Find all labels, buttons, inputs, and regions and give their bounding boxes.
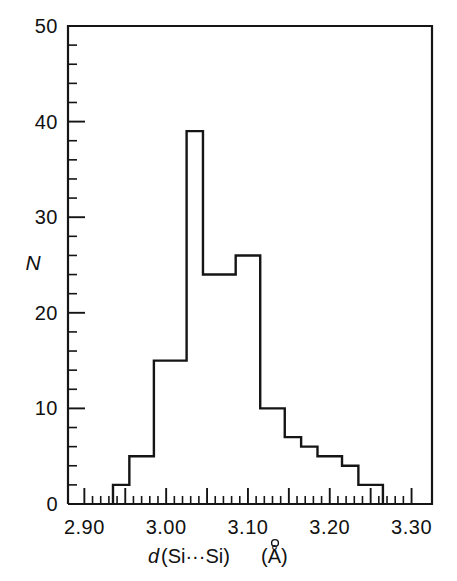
x-axis-title-variable: d [148,545,160,567]
x-tick-label: 3.20 [309,516,350,538]
x-axis-title-atoms: (Si···Si) [161,545,230,567]
x-tick-label: 3.00 [146,516,187,538]
x-axis-title-unit: (Å) [261,545,288,567]
y-tick-label: 40 [35,111,58,133]
x-tick-label: 2.90 [64,516,105,538]
x-axis-title: d (Si···Si) (Å) [148,545,288,567]
x-tick-labels: 2.903.003.103.203.30 [64,516,432,538]
x-tick-label: 3.30 [391,516,432,538]
y-tick-label: 20 [35,302,58,324]
histogram-figure: 01020304050 2.903.003.103.203.30 N d (Si… [0,0,457,581]
histogram-svg: 01020304050 2.903.003.103.203.30 N d (Si… [0,0,457,581]
y-tick-label: 50 [35,15,58,37]
y-tick-label: 10 [35,397,58,419]
x-axis-ticks [84,488,411,504]
y-axis-title: N [25,251,41,274]
y-tick-label: 0 [46,493,58,515]
frame-rect [68,26,432,504]
histogram-step-outline [113,131,383,504]
y-tick-label: 30 [35,206,58,228]
x-tick-label: 3.10 [227,516,268,538]
y-axis-ticks [68,26,85,504]
plot-frame [68,26,432,504]
